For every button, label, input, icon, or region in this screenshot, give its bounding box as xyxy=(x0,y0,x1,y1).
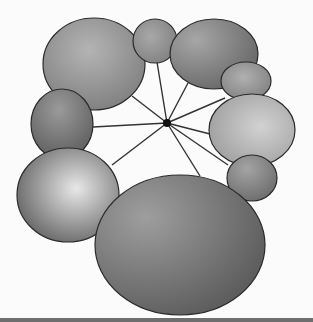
hub-node xyxy=(163,119,171,127)
spoke-to-top-left-large xyxy=(132,96,167,123)
node-bottom-large xyxy=(95,175,265,315)
spoke-to-left-bottom-large xyxy=(112,123,167,165)
spoke-to-top-right xyxy=(167,83,188,123)
spoke-to-bottom-large xyxy=(167,123,200,176)
hub xyxy=(163,119,171,127)
bottom-rule xyxy=(0,318,313,322)
hub-spoke-diagram xyxy=(0,0,313,322)
spoke-to-top-center-small xyxy=(157,62,167,123)
nodes xyxy=(17,18,295,315)
spoke-to-left-mid xyxy=(93,123,167,127)
